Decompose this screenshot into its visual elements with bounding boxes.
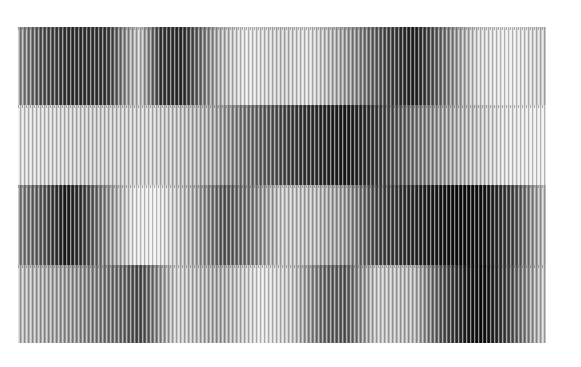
band-edge	[18, 185, 546, 188]
band-stripes	[18, 265, 546, 343]
texture-band-2	[18, 105, 546, 185]
band-stripes	[18, 105, 546, 185]
texture-band-3	[18, 185, 546, 265]
texture-band-4	[18, 265, 546, 343]
striped-texture-image	[18, 27, 546, 343]
band-edge	[18, 105, 546, 108]
band-edge	[18, 27, 546, 30]
band-stripes	[18, 27, 546, 105]
band-edge	[18, 265, 546, 268]
band-stripes	[18, 185, 546, 265]
texture-band-1	[18, 27, 546, 105]
